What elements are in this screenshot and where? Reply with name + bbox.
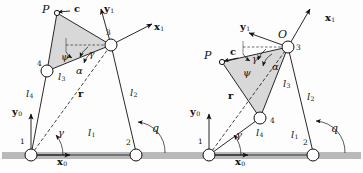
- axis-x1-label-right: x1: [325, 13, 335, 24]
- link-l1-label-right: l1: [291, 130, 299, 141]
- angle-q-label-left: q: [152, 123, 159, 134]
- joint-1-right: [203, 149, 215, 161]
- angle-alpha-label-right: α: [272, 62, 279, 72]
- axis-x0-label-right: x0: [235, 157, 245, 168]
- link-l4-label-right: l4: [256, 128, 264, 139]
- origin-o-label-right: O: [278, 29, 287, 40]
- axis-y1-label-right: y1: [240, 22, 250, 33]
- joint-2-label-left: 2: [126, 139, 131, 147]
- vector-r-label-left: r: [78, 89, 83, 99]
- point-p-label-right: P: [204, 50, 211, 61]
- angle-psi-label-left: ψ: [61, 52, 69, 62]
- vector-c-label-right: c: [230, 47, 236, 57]
- joint-1-label-right: 1: [198, 138, 203, 146]
- joint-3-right: [282, 41, 294, 53]
- joint-2-left: [130, 149, 142, 161]
- axis-x1-left: [111, 24, 152, 45]
- point-p-label-left: P: [42, 4, 49, 15]
- link-l4-right: [209, 118, 260, 155]
- joint-3-label-right: 3: [296, 44, 301, 52]
- angle-q-label-right: q: [331, 123, 338, 134]
- angle-gamma-base-label-right: γ: [236, 130, 242, 140]
- vector-c-label-left: c: [74, 4, 80, 14]
- axis-x1-label-left: x1: [154, 22, 164, 33]
- joint-4-left: [41, 65, 53, 77]
- link-l3-label-left: l3: [58, 72, 66, 83]
- joint-1-label-left: 1: [20, 138, 25, 146]
- link-l4-left: [31, 71, 47, 155]
- coupler-triangle-left: [47, 13, 111, 71]
- link-l4-label-left: l4: [26, 89, 34, 100]
- link-l2-label-right: l2: [307, 92, 315, 103]
- vector-r-label-right: r: [228, 91, 233, 101]
- link-l3-label-right: l3: [283, 79, 291, 90]
- link-l1-label-left: l1: [88, 128, 96, 139]
- angle-psi-label-right: ψ: [243, 68, 251, 78]
- joint-2-label-right: 2: [303, 139, 308, 147]
- joint-4-label-right: 4: [270, 117, 275, 125]
- joint-3-label-left: 3: [106, 29, 111, 37]
- angle-gamma-coupler-label-left: γ: [89, 50, 94, 59]
- angle-gamma-coupler-label-right: γ: [252, 54, 258, 64]
- joint-4-right: [254, 112, 266, 124]
- link-l2-label-left: l2: [130, 88, 138, 99]
- point-p-left: [54, 10, 59, 15]
- joint-4-label-left: 4: [37, 60, 42, 68]
- point-p-right: [219, 59, 224, 64]
- linkage-drawing: [0, 0, 363, 173]
- joint-1-left: [25, 149, 37, 161]
- angle-alpha-label-left: α: [76, 66, 83, 76]
- angle-arc-gamma-base-left: [56, 135, 63, 155]
- axis-x1-right: [288, 9, 310, 47]
- joint-2-right: [307, 149, 319, 161]
- diagram-right: [203, 9, 345, 161]
- axis-x0-label-left: x0: [57, 157, 67, 168]
- joint-3-left: [105, 39, 117, 51]
- axis-y1-label-left: y1: [104, 4, 114, 15]
- axis-y0-label-left: y0: [12, 107, 22, 118]
- figure-canvas: P c y1 x1 3 ψ γ α 4 l3 l4 l2 r y0 γ l1 1…: [0, 0, 363, 173]
- axis-y0-label-right: y0: [190, 107, 200, 118]
- angle-gamma-base-label-left: γ: [58, 128, 64, 138]
